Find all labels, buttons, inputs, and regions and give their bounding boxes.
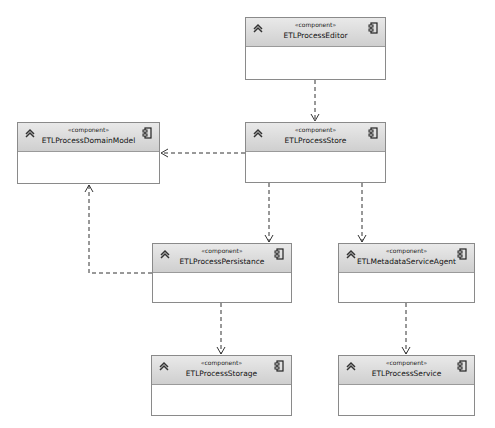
stereotype-label: «component» bbox=[246, 126, 385, 134]
component-name: ETLProcessStore bbox=[246, 136, 385, 146]
stereotype-label: «component» bbox=[18, 126, 159, 134]
component-etl-process-persistance[interactable]: «component» ETLProcessPersistance bbox=[152, 243, 292, 303]
component-icon bbox=[457, 360, 467, 372]
component-etl-process-store[interactable]: «component» ETLProcessStore bbox=[245, 122, 386, 183]
component-name: ETLProcessPersistance bbox=[153, 257, 291, 267]
component-header: «component» ETLProcessPersistance bbox=[153, 244, 291, 273]
component-header: «component» ETLProcessService bbox=[339, 356, 474, 385]
component-etl-process-editor[interactable]: «component» ETLProcessEditor bbox=[245, 17, 386, 80]
component-header: «component» ETLMetadataServiceAgent bbox=[339, 244, 474, 273]
component-icon bbox=[274, 248, 284, 260]
stereotype-label: «component» bbox=[339, 247, 474, 255]
component-etl-metadata-service-agent[interactable]: «component» ETLMetadataServiceAgent bbox=[338, 243, 475, 303]
component-header: «component» ETLProcessDomainModel bbox=[18, 123, 159, 152]
stereotype-label: «component» bbox=[246, 21, 385, 29]
component-etl-process-storage[interactable]: «component» ETLProcessStorage bbox=[151, 355, 292, 416]
component-etl-process-service[interactable]: «component» ETLProcessService bbox=[338, 355, 475, 416]
component-icon bbox=[368, 127, 378, 139]
stereotype-label: «component» bbox=[153, 247, 291, 255]
component-icon bbox=[274, 360, 284, 372]
component-header: «component» ETLProcessEditor bbox=[246, 18, 385, 47]
component-etl-process-domain-model[interactable]: «component» ETLProcessDomainModel bbox=[17, 122, 160, 184]
component-name: ETLProcessStorage bbox=[152, 369, 291, 379]
component-header: «component» ETLProcessStorage bbox=[152, 356, 291, 385]
component-name: ETLProcessEditor bbox=[246, 31, 385, 41]
component-icon bbox=[368, 22, 378, 34]
component-name: ETLMetadataServiceAgent bbox=[339, 257, 474, 267]
stereotype-label: «component» bbox=[339, 359, 474, 367]
stereotype-label: «component» bbox=[152, 359, 291, 367]
diagram-canvas: «component» ETLProcessEditor «component»… bbox=[0, 0, 495, 428]
component-name: ETLProcessService bbox=[339, 369, 474, 379]
component-name: ETLProcessDomainModel bbox=[18, 136, 159, 146]
component-icon bbox=[142, 127, 152, 139]
component-icon bbox=[457, 248, 467, 260]
component-header: «component» ETLProcessStore bbox=[246, 123, 385, 152]
